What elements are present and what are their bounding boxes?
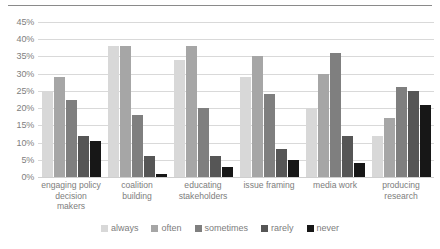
bar-rarely[interactable] [144,156,155,177]
y-tick-label: 25% [17,86,34,95]
y-tick-label: 15% [17,121,34,130]
y-tick-label: 40% [17,35,34,44]
bar-chart: 0%5%10%15%20%25%30%35%40%45% engaging po… [0,0,440,249]
axis-baseline [38,177,434,178]
bar-often[interactable] [120,46,131,177]
legend-item-sometimes[interactable]: sometimes [195,224,249,233]
bars [38,22,104,177]
bar-rarely[interactable] [342,136,353,177]
bar-always[interactable] [240,77,251,177]
bar-sometimes[interactable] [66,100,77,178]
bars [170,22,236,177]
bar-often[interactable] [252,56,263,177]
bar-rarely[interactable] [78,136,89,177]
legend-label: often [161,224,181,233]
legend-item-rarely[interactable]: rarely [261,224,294,233]
bars [368,22,434,177]
bar-sometimes[interactable] [132,115,143,177]
legend-label: always [111,224,139,233]
legend-label: sometimes [205,224,249,233]
bar-rarely[interactable] [276,149,287,177]
bar-rarely[interactable] [210,156,221,177]
y-tick-label: 20% [17,104,34,113]
bar-always[interactable] [306,108,317,177]
legend-swatch-icon [151,225,158,232]
legend-item-often[interactable]: often [151,224,181,233]
bar-groups [38,22,434,177]
bar-group [368,22,434,177]
x-tick-label: engaging policydecisionmakers [38,180,104,212]
legend-swatch-icon [307,225,314,232]
bar-always[interactable] [174,60,185,177]
bar-often[interactable] [384,118,395,177]
y-axis-labels: 0%5%10%15%20%25%30%35%40%45% [0,22,34,177]
legend-swatch-icon [261,225,268,232]
legend-swatch-icon [195,225,202,232]
legend-item-never[interactable]: never [307,224,340,233]
x-tick-label: issue framing [236,180,302,212]
plot-area [38,22,434,177]
bar-always[interactable] [372,136,383,177]
bar-sometimes[interactable] [396,87,407,177]
bar-group [302,22,368,177]
x-tick-label: educatingstakeholders [170,180,236,212]
legend-label: never [317,224,340,233]
bar-group [38,22,104,177]
x-axis-labels: engaging policydecisionmakerscoalitionbu… [38,180,434,212]
top-divider [8,5,432,6]
bar-always[interactable] [42,91,53,177]
x-tick-label: media work [302,180,368,212]
legend-label: rarely [271,224,294,233]
y-tick-label: 5% [21,155,34,164]
bar-often[interactable] [54,77,65,177]
bar-group [236,22,302,177]
bar-often[interactable] [186,46,197,177]
x-tick-label: coalitionbuilding [104,180,170,212]
bars [236,22,302,177]
bar-never[interactable] [156,174,167,177]
bar-sometimes[interactable] [264,94,275,177]
bars [302,22,368,177]
y-tick-label: 0% [21,173,34,182]
bar-often[interactable] [318,74,329,177]
y-tick-label: 45% [17,18,34,27]
bar-sometimes[interactable] [198,108,209,177]
legend-swatch-icon [101,225,108,232]
legend-item-always[interactable]: always [101,224,139,233]
y-tick-label: 35% [17,52,34,61]
legend: alwaysoftensometimesrarelynever [0,224,440,233]
bar-never[interactable] [354,163,365,177]
y-tick-label: 10% [17,138,34,147]
bar-never[interactable] [222,167,233,177]
bar-never[interactable] [90,141,101,177]
bar-always[interactable] [108,46,119,177]
bar-rarely[interactable] [408,91,419,177]
bar-never[interactable] [288,160,299,177]
x-tick-label: producingresearch [368,180,434,212]
bar-group [170,22,236,177]
bar-never[interactable] [420,105,431,177]
bar-sometimes[interactable] [330,53,341,177]
bar-group [104,22,170,177]
y-tick-label: 30% [17,69,34,78]
bars [104,22,170,177]
